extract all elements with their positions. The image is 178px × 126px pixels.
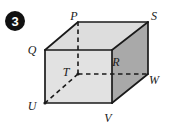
vertex-label-r: R [111,55,120,69]
vertex-label-w: W [149,73,160,87]
question-number-badge: 3 [5,11,25,31]
vertex-dot-U [43,101,46,104]
vertex-label-s: S [151,9,157,23]
figure-container: PSQRTWUV 3 [0,0,178,126]
vertex-label-q: Q [28,43,37,57]
prism-diagram: PSQRTWUV 3 [0,0,178,126]
vertex-dot-T [76,72,79,75]
vertex-label-v: V [104,111,113,125]
vertex-label-p: P [69,9,78,23]
badge-number-label: 3 [11,14,18,29]
vertex-label-u: U [28,99,38,113]
